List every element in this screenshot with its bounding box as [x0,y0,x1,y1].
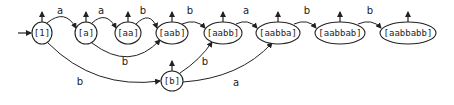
edge-label-eps-a: a [57,5,63,16]
state-node-aabbabb: [aabbabb] [380,12,436,44]
state-node-b: [b] [161,61,183,91]
state-label: [aabba] [259,28,297,38]
edge-label-aabba-aabbab: b [304,5,310,16]
state-node-aabba: [aabba] [256,12,300,44]
state-label: [aabbab] [318,28,361,38]
state-node-aabbab: [aabbab] [315,12,365,44]
edge-label-aab-aabb: b [187,5,193,16]
state-label: [aabbabb] [384,28,433,38]
state-label: [aab] [158,28,185,38]
state-label: [aa] [117,28,139,38]
edge-label-a-aa: a [98,5,104,16]
edge-b-aabba [183,43,272,82]
state-node-aabb: [aabb] [204,12,242,44]
state-node-eps: [1] [32,12,52,44]
state-label: [1] [34,28,50,38]
edge-eps-b [48,43,160,82]
edge-label-b-aabb: b [202,56,208,67]
edge-a-aa [92,18,116,28]
state-label: [a] [78,28,94,38]
edge-label-eps-b: b [77,76,83,87]
edge-eps-a [47,17,76,28]
edge-label-aabb-aabba: a [243,5,249,16]
edge-label-a-aab: b [122,56,128,67]
state-label: [aabb] [207,28,240,38]
state-node-aab: [aab] [156,12,188,44]
edge-label-b-aabba: a [233,77,239,88]
state-label: [b] [164,76,180,86]
edge-label-aa-aab: b [140,5,146,16]
edge-label-aabbab-aabbabb: b [367,5,373,16]
state-node-a: [a] [75,12,97,44]
automaton-diagram: [1][a][aa][aab][aabb][aabba][aabbab][aab… [0,0,454,105]
state-node-aa: [aa] [115,12,141,44]
